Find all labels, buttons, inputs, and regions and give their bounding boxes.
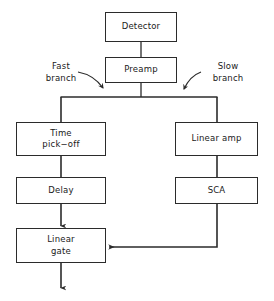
node-delay-label: Delay [48, 185, 73, 197]
slow-branch-label: Slow branch [205, 61, 251, 84]
node-linear-gate[interactable]: Linear gate [16, 228, 106, 263]
fast-branch-label: Fast branch [38, 61, 84, 84]
node-preamp[interactable]: Preamp [105, 57, 177, 83]
node-delay[interactable]: Delay [16, 177, 106, 204]
node-detector-label: Detector [122, 21, 161, 33]
node-sca-label: SCA [208, 185, 226, 197]
node-linear-amp-label: Linear amp [191, 133, 241, 145]
node-time-pickoff-label: Time pick−off [42, 128, 79, 151]
node-sca[interactable]: SCA [175, 177, 258, 204]
slow-branch-arrow [184, 72, 201, 89]
block-diagram: Detector Preamp Time pick−off Linear amp… [0, 0, 274, 301]
node-linear-amp[interactable]: Linear amp [175, 122, 258, 156]
node-detector[interactable]: Detector [105, 12, 177, 42]
node-linear-gate-label: Linear gate [47, 234, 75, 257]
node-time-pickoff[interactable]: Time pick−off [16, 122, 106, 156]
wire-sca-linear-gate [109, 204, 217, 247]
node-preamp-label: Preamp [124, 64, 158, 76]
